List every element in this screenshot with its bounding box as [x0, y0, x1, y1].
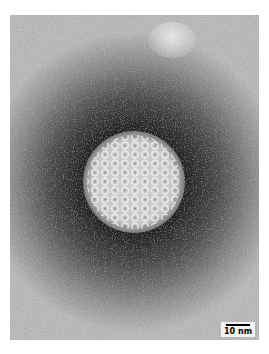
micrograph-image: 10 nm — [10, 15, 259, 340]
scale-bar-label: 10 nm — [224, 327, 252, 336]
scale-bar-line — [226, 324, 250, 326]
micrograph-render — [10, 15, 259, 340]
scale-bar: 10 nm — [221, 322, 255, 337]
